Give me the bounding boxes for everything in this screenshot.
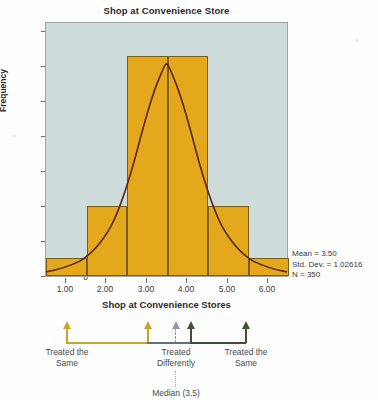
x-axis-tick-mark bbox=[227, 278, 228, 283]
normal-curve bbox=[46, 23, 287, 276]
x-axis-tick-label: 4.00 bbox=[166, 284, 206, 294]
plot-area bbox=[45, 22, 288, 277]
x-axis-label: Shop at Convenience Stores bbox=[45, 299, 288, 310]
arrow-stem-treated-differently bbox=[175, 328, 176, 343]
x-axis-tick-mark bbox=[65, 278, 66, 283]
stat-mean: Mean = 3.50 bbox=[292, 249, 362, 260]
x-axis-tick-mark bbox=[186, 278, 187, 283]
x-axis-tick-label: 5.00 bbox=[207, 284, 247, 294]
scan-artifact bbox=[13, 135, 15, 137]
arrow-stem-treated-same-right bbox=[245, 328, 247, 343]
annotation-label-treated-same-right: Treated the Same bbox=[211, 347, 281, 369]
arrow-stem-treated-same-left-inner bbox=[147, 328, 149, 343]
annotation-band: Treated the Same Treated Differently Med… bbox=[0, 315, 378, 400]
annotation-line-2: Same bbox=[235, 358, 257, 368]
x-axis-tick-label: 3.00 bbox=[126, 284, 166, 294]
y-axis-label: Frequency bbox=[0, 69, 8, 112]
bracket-line-treated-same-left bbox=[66, 342, 148, 344]
annotation-label-treated-same-left: Treated the Same bbox=[32, 347, 102, 369]
stat-std-dev: Std. Dev. = 1.02616 bbox=[292, 260, 362, 271]
statistics-box: Mean = 3.50 Std. Dev. = 1.02616 N = 350 bbox=[292, 249, 362, 281]
stat-n: N = 350 bbox=[292, 270, 362, 281]
annotation-line-1: Treated the bbox=[45, 347, 88, 357]
chart-figure: Shop at Convenience Store Frequency 140 … bbox=[0, 0, 378, 400]
median-label: Median (3.5) bbox=[140, 388, 212, 398]
x-axis-tick-mark bbox=[105, 278, 106, 283]
arrow-stem-treated-same-right-inner bbox=[190, 328, 192, 343]
annotation-line-1: Treated the bbox=[224, 347, 267, 357]
x-axis-tick-mark bbox=[146, 278, 147, 283]
bracket-line-treated-same-right bbox=[190, 342, 246, 344]
annotation-line-2: Same bbox=[56, 358, 78, 368]
annotation-line-2: Differently bbox=[157, 358, 195, 368]
bracket-line-treated-differently bbox=[147, 342, 191, 344]
x-axis-tick-label: 2.00 bbox=[85, 284, 125, 294]
chart-title: Shop at Convenience Store bbox=[45, 5, 288, 16]
annotation-label-treated-differently: Treated Differently bbox=[141, 347, 211, 369]
x-axis-tick-label: 1.00 bbox=[45, 284, 85, 294]
x-axis-tick-mark bbox=[267, 278, 268, 283]
scan-artifact bbox=[356, 39, 358, 42]
median-connector-line bbox=[175, 371, 176, 387]
annotation-line-1: Treated bbox=[162, 347, 191, 357]
x-axis-tick-label: 6.00 bbox=[247, 284, 287, 294]
arrow-stem-treated-same-left bbox=[66, 328, 68, 343]
plot-inner bbox=[46, 23, 287, 276]
